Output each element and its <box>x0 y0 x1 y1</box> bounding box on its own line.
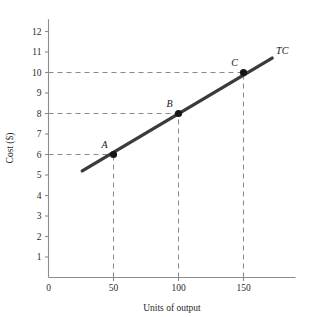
data-point-a <box>110 151 117 158</box>
x-tick-label-50: 50 <box>109 283 119 293</box>
data-point-b <box>175 110 182 117</box>
data-point-label-b: B <box>166 98 172 109</box>
data-point-labels-group: ABC <box>100 57 238 150</box>
x-tick-label-150: 150 <box>236 283 251 293</box>
y-tick-label-4: 4 <box>37 191 42 201</box>
y-tick-label-5: 5 <box>37 170 42 180</box>
y-tick-label-12: 12 <box>32 27 42 37</box>
data-point-label-a: A <box>100 139 108 150</box>
y-tick-label-3: 3 <box>37 211 42 221</box>
curve-label-group: TC <box>276 45 289 56</box>
y-tick-label-1: 1 <box>37 252 42 262</box>
x-axis-title: Units of output <box>143 303 201 313</box>
y-tick-label-9: 9 <box>37 88 42 98</box>
y-tick-label-11: 11 <box>32 47 41 57</box>
data-point-c <box>240 69 247 76</box>
x-tick-label-100: 100 <box>171 283 186 293</box>
x-tick-label-0: 0 <box>46 283 51 293</box>
y-tick-label-8: 8 <box>37 109 42 119</box>
x-axis-ticks-group: 050100150 <box>46 278 251 293</box>
y-tick-label-10: 10 <box>32 68 42 78</box>
guide-lines-group <box>49 73 244 278</box>
data-point-label-c: C <box>231 57 238 68</box>
axes-group <box>49 19 296 277</box>
chart-canvas: 123456789101112 050100150 ABC TC Units o… <box>0 0 310 317</box>
y-tick-label-7: 7 <box>37 129 42 139</box>
y-axis-title: Cost ($) <box>5 133 16 164</box>
y-axis-ticks-group: 123456789101112 <box>32 27 49 263</box>
y-tick-label-2: 2 <box>37 232 42 242</box>
cost-curve-figure: 123456789101112 050100150 ABC TC Units o… <box>0 0 310 317</box>
curve-label-tc: TC <box>276 45 289 56</box>
y-tick-label-6: 6 <box>37 150 42 160</box>
